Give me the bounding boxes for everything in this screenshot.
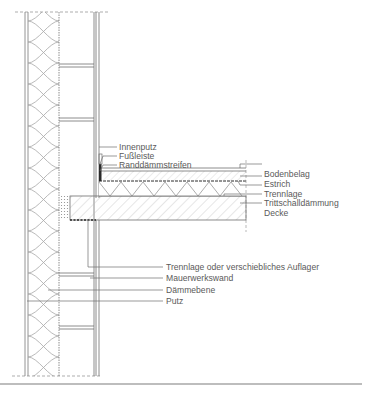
screed (101, 171, 246, 181)
label-trittschalldaemmung: Trittschalldämmung (264, 198, 339, 208)
label-daemmebene: Dämmebene (166, 285, 215, 295)
label-mauerwerkswand: Mauerwerkswand (166, 273, 234, 283)
exterior-plaster (25, 12, 28, 376)
label-estrich: Estrich (264, 179, 290, 189)
label-trennlage-auflager: Trennlage oder verschiebliches Auflager (166, 262, 319, 272)
label-randdaemmstreifen: Randdämmstreifen (119, 160, 192, 170)
label-putz: Putz (166, 296, 183, 306)
label-bodenbelag: Bodenbelag (264, 169, 310, 179)
masonry-wall (59, 12, 94, 376)
concrete-slab (61, 196, 246, 220)
insulation-layer (28, 12, 59, 376)
edge-insulation-strip (99, 164, 102, 181)
label-decke: Decke (264, 208, 289, 218)
construction-detail-diagram: Innenputz Fußleiste Randdämmstreifen Bod… (0, 0, 365, 395)
bottom-rule (0, 383, 362, 385)
interior-plaster (96, 12, 99, 376)
